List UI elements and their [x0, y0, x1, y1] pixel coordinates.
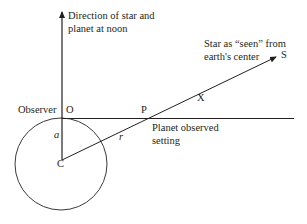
point-o-label: O	[66, 104, 74, 116]
noon-direction-label-1: Direction of star and	[68, 10, 155, 22]
planet-setting-label-1: Planet observed	[152, 122, 219, 134]
planet-setting-label-2: setting	[152, 135, 180, 147]
radius-a-label: a	[54, 129, 59, 141]
observer-label: Observer	[18, 104, 56, 116]
star-seen-label-2: earth's center	[204, 51, 259, 63]
star-seen-label-1: Star as “seen” from	[204, 38, 286, 50]
center-c-label: C	[57, 158, 64, 170]
point-p-label: P	[141, 104, 147, 116]
point-x-label: X	[197, 92, 205, 104]
noon-direction-label-2: planet at noon	[68, 23, 127, 35]
distance-r-label: r	[119, 131, 123, 143]
point-s-label: S	[281, 49, 287, 61]
